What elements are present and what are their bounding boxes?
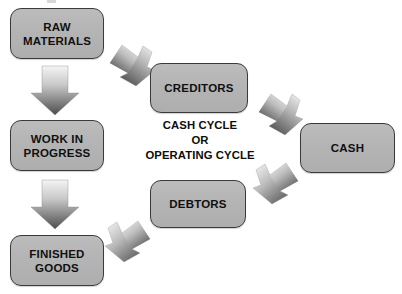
node-finished-goods-label: FINISHED GOODS (29, 247, 84, 275)
node-raw-materials-label: RAW MATERIALS (23, 20, 91, 48)
center-caption: CASH CYCLE OR OPERATING CYCLE (140, 118, 260, 163)
arrow-debtors-to-cash (253, 163, 298, 204)
node-finished-goods[interactable]: FINISHED GOODS (10, 235, 104, 286)
node-work-in-progress[interactable]: WORK IN PROGRESS (10, 120, 104, 171)
node-raw-materials[interactable]: RAW MATERIALS (10, 8, 104, 59)
node-work-in-progress-label: WORK IN PROGRESS (24, 132, 91, 160)
node-debtors[interactable]: DEBTORS (150, 180, 246, 228)
arrow-wip-to-finished (31, 180, 79, 229)
node-creditors-label: CREDITORS (164, 81, 233, 95)
arrow-finished-to-debtors (105, 221, 150, 262)
caption-line-1: CASH CYCLE (140, 118, 260, 133)
arrow-raw-to-wip (31, 66, 79, 115)
arrow-creditors-to-raw (110, 45, 155, 86)
scan-artifact (47, 0, 56, 3)
caption-line-3: OPERATING CYCLE (140, 148, 260, 163)
node-cash[interactable]: CASH (300, 123, 395, 173)
diagram-canvas: RAW MATERIALS WORK IN PROGRESS FINISHED … (0, 0, 402, 294)
caption-line-2: OR (140, 133, 260, 148)
node-cash-label: CASH (331, 141, 364, 155)
node-debtors-label: DEBTORS (169, 197, 226, 211)
node-creditors[interactable]: CREDITORS (150, 63, 248, 113)
arrow-cash-to-creditors (259, 94, 303, 135)
